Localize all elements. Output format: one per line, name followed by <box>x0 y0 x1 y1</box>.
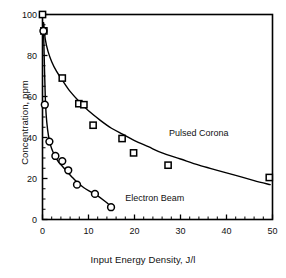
chart-figure: 01020304050 020406080100 Pulsed CoronaEl… <box>0 0 286 278</box>
plot-canvas <box>0 0 286 278</box>
x-tick-label: 50 <box>267 226 277 236</box>
y-axis-title: Concentration, ppm <box>19 43 30 203</box>
y-tick-label: 100 <box>8 10 37 20</box>
x-tick-label: 30 <box>175 226 185 236</box>
series-label-pulsed-corona: Pulsed Corona <box>169 128 229 138</box>
x-tick-label: 10 <box>83 226 93 236</box>
x-axis-title: Input Energy Density, J/l <box>0 254 286 265</box>
series-label-electron-beam: Electron Beam <box>125 193 184 203</box>
x-tick-label: 20 <box>129 226 139 236</box>
x-tick-label: 40 <box>221 226 231 236</box>
x-tick-label: 0 <box>40 226 45 236</box>
y-tick-label: 0 <box>8 215 37 225</box>
